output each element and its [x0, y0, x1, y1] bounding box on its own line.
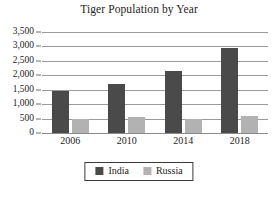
bar-russia-2018 — [241, 116, 258, 133]
legend-swatch-icon — [95, 167, 103, 175]
x-tick-label: 2010 — [117, 136, 137, 146]
bar-india-2010 — [108, 84, 125, 133]
legend-swatch-icon — [143, 167, 151, 175]
x-tick-label: 2014 — [173, 136, 193, 146]
y-tick-label: 2,000 — [13, 71, 34, 81]
legend-label: India — [108, 166, 129, 176]
y-tick-label: 2,500 — [13, 56, 34, 66]
y-tick-mark — [36, 60, 41, 61]
bar-group — [221, 32, 258, 133]
bar-russia-2014 — [185, 119, 202, 133]
legend-entry-russia[interactable]: Russia — [143, 166, 183, 176]
y-tick-label: 0 — [29, 128, 34, 138]
plot-area — [42, 32, 268, 133]
bar-group — [52, 32, 89, 133]
y-tick-mark — [36, 89, 41, 90]
bar-russia-2010 — [128, 117, 145, 133]
y-tick-label: 500 — [20, 114, 34, 124]
y-tick-label: 1,500 — [13, 85, 34, 95]
legend-label: Russia — [156, 166, 183, 176]
bar-group — [108, 32, 145, 133]
x-axis: 2006201020142018 — [42, 136, 268, 152]
chart-title: Tiger Population by Year — [0, 3, 278, 15]
y-tick-label: 1,000 — [13, 99, 34, 109]
y-tick-mark — [36, 75, 41, 76]
bar-india-2018 — [221, 48, 238, 133]
bar-india-2006 — [52, 91, 69, 133]
y-tick-mark — [36, 104, 41, 105]
y-tick-mark — [36, 133, 41, 134]
y-tick-mark — [36, 118, 41, 119]
y-tick-label: 3,000 — [13, 42, 34, 52]
axis-baseline — [42, 133, 268, 134]
y-tick-label: 3,500 — [13, 27, 34, 37]
y-axis: 05001,0001,5002,0002,5003,0003,500 — [0, 32, 34, 133]
x-tick-label: 2006 — [60, 136, 80, 146]
bar-group — [165, 32, 202, 133]
chart-legend: IndiaRussia — [84, 162, 193, 181]
y-tick-mark — [36, 32, 41, 33]
bar-india-2014 — [165, 71, 182, 133]
bar-russia-2006 — [72, 119, 89, 133]
chart-figure: Tiger Population by Year 05001,0001,5002… — [0, 0, 278, 197]
y-tick-mark — [36, 46, 41, 47]
legend-entry-india[interactable]: India — [95, 166, 129, 176]
x-tick-label: 2018 — [230, 136, 250, 146]
